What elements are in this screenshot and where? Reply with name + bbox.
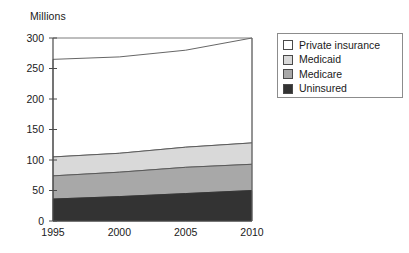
legend-item-medicare: Medicare <box>283 67 397 82</box>
legend-label-uninsured: Uninsured <box>299 83 347 94</box>
y-tick-label-0: 0 <box>38 215 44 227</box>
legend-label-medicaid: Medicaid <box>299 54 341 65</box>
x-tick-label-2010: 2010 <box>240 226 264 238</box>
legend-item-private-insurance: Private insurance <box>283 38 397 53</box>
x-tick-label-1995: 1995 <box>41 226 65 238</box>
y-tick-label-150: 150 <box>26 123 44 135</box>
legend-swatch-medicare <box>283 69 293 79</box>
x-tick-label-2005: 2005 <box>174 226 198 238</box>
y-tick-label-100: 100 <box>26 154 44 166</box>
chart-figure: Millions 050100150200250300 199520002005… <box>0 0 409 253</box>
legend-swatch-uninsured <box>283 84 293 94</box>
x-tick-label-2000: 2000 <box>108 226 132 238</box>
legend-swatch-private-insurance <box>283 40 293 50</box>
legend-label-medicare: Medicare <box>299 69 342 80</box>
y-tick-label-300: 300 <box>26 32 44 44</box>
legend-item-uninsured: Uninsured <box>283 82 397 97</box>
chart-legend: Private insurance Medicaid Medicare Unin… <box>277 33 403 98</box>
legend-item-medicaid: Medicaid <box>283 53 397 68</box>
y-tick-label-200: 200 <box>26 93 44 105</box>
y-tick-label-50: 50 <box>32 184 44 196</box>
x-tick-labels: 1995200020052010 <box>41 226 264 238</box>
y-tick-label-250: 250 <box>26 62 44 74</box>
y-tick-labels: 050100150200250300 <box>26 32 44 227</box>
legend-swatch-medicaid <box>283 55 293 65</box>
legend-label-private-insurance: Private insurance <box>299 40 380 51</box>
